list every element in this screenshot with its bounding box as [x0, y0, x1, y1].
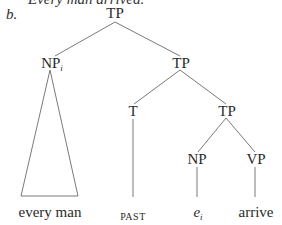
edge-tp1-t [134, 70, 180, 104]
node-t: T [128, 104, 137, 119]
edge-root-tp1 [115, 22, 180, 56]
edge-root-npi [55, 22, 115, 56]
node-tp2: TP [218, 104, 236, 119]
node-tp1: TP [172, 56, 190, 71]
tree-edges [0, 0, 282, 225]
edge-tp2-vp [226, 118, 255, 152]
leaf-e-subscript: i [200, 212, 203, 222]
node-np-i-label: NP [41, 55, 60, 71]
leaf-e-i: ei [193, 205, 202, 225]
node-np: NP [187, 152, 206, 167]
node-np-i-subscript: i [60, 63, 63, 73]
triangle-every-man [21, 70, 78, 196]
node-root-tp: TP [106, 6, 124, 21]
leaf-arrive: arrive [239, 205, 274, 220]
leaf-past: PAST [120, 209, 146, 224]
leaf-e-label: e [193, 204, 200, 220]
edge-tp2-np [198, 118, 226, 152]
edge-tp1-tp2 [180, 70, 226, 104]
node-np-i: NPi [41, 56, 63, 76]
node-vp: VP [246, 152, 265, 167]
leaf-every-man: every man [19, 205, 82, 220]
